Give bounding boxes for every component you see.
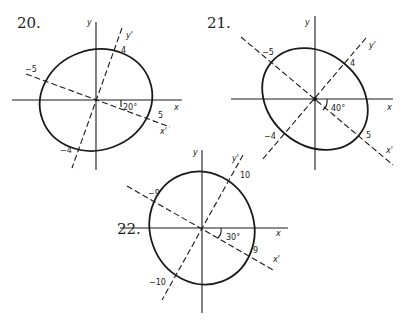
y-prime-label: y' xyxy=(368,41,376,50)
figure-22: 22. 30° x y x' y' 9 −9 10 −10 xyxy=(117,148,288,313)
x-label: x xyxy=(386,103,392,112)
angle-arc xyxy=(218,228,221,238)
x-prime-label: x' xyxy=(159,127,167,136)
vertex-neg-label: −5 xyxy=(25,65,37,74)
y-prime-label: y' xyxy=(231,154,239,163)
figure-number: 21. xyxy=(207,14,231,32)
figure-number: 20. xyxy=(17,14,41,32)
x-label: x xyxy=(173,103,179,112)
figure-number: 22. xyxy=(117,220,141,238)
y-prime-label: y' xyxy=(125,31,133,40)
vertex-neg-label: −9 xyxy=(148,189,160,198)
y-label: y xyxy=(304,18,310,27)
covertex-pos-label: 4 xyxy=(350,59,355,68)
covertex-neg-label: −4 xyxy=(60,146,72,155)
covertex-pos-label: 4 xyxy=(121,46,126,55)
angle-label: 30° xyxy=(226,233,240,242)
covertex-neg-label: −4 xyxy=(264,132,276,141)
vertex-pos-label: 5 xyxy=(158,111,163,120)
angle-label: 20° xyxy=(123,103,137,112)
vertex-pos-label: 9 xyxy=(253,246,258,255)
x-prime-label: x' xyxy=(385,146,393,155)
y-label: y xyxy=(192,148,198,157)
angle-label: 40° xyxy=(331,104,345,113)
vertex-neg-label: −5 xyxy=(262,48,274,57)
vertex-pos-label: 5 xyxy=(366,131,371,140)
rotated-ellipse-figures: 20. 20° x y x' y' 5 −5 4 −4 21. 40° x y … xyxy=(0,0,405,323)
covertex-neg-label: −10 xyxy=(149,278,166,287)
x-prime-label: x' xyxy=(272,255,280,264)
origin-dot xyxy=(313,97,317,101)
covertex-pos-label: 10 xyxy=(240,171,250,180)
figure-21: 21. 40° x y x' y' 5 −5 4 −4 xyxy=(207,14,393,171)
y-label: y xyxy=(86,18,92,27)
x-label: x xyxy=(275,229,281,238)
figure-20: 20. 20° x y x' y' 5 −5 4 −4 xyxy=(12,14,182,170)
